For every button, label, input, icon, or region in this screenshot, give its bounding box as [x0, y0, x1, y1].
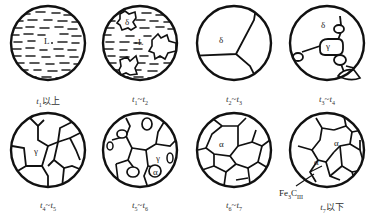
caption-t7-below: t7以下 — [292, 200, 372, 214]
phase-label-alpha: α — [314, 157, 319, 167]
phase-label-gamma: γ — [34, 146, 38, 156]
phase-label-delta: δ — [125, 17, 129, 27]
phase-label-delta: δ — [321, 20, 325, 30]
caption-t4-t5: t4~t5 — [8, 200, 88, 212]
caption-t5-t6: t5~t6 — [100, 200, 180, 212]
phase-label-gamma: γ — [156, 153, 160, 163]
fe3c-annotation: Fe3CIII — [279, 188, 303, 200]
phase-label-L: L — [138, 37, 144, 47]
caption-t3-t4: t3~t4 — [287, 94, 367, 106]
panel-delta-grains — [188, 6, 271, 82]
phase-label-alpha: α — [153, 167, 158, 177]
panel-gamma-grains — [11, 113, 85, 188]
caption-t6-t7: t6~t7 — [194, 200, 274, 212]
phase-label-alpha: α — [334, 138, 339, 148]
panel-alpha-fe3c — [290, 113, 364, 187]
panel-alpha-grains — [197, 113, 271, 187]
caption-t1-above: t1以上 — [8, 94, 88, 108]
phase-label-alpha: α — [219, 139, 224, 149]
caption-t2-t3: t2~t3 — [194, 94, 274, 106]
phase-label-gamma: γ — [326, 41, 330, 51]
caption-t1-t2: t1~t2 — [100, 94, 180, 106]
phase-label-delta: δ — [219, 35, 223, 45]
phase-label-L: L — [44, 36, 50, 46]
panel-gamma-alpha — [103, 113, 177, 188]
